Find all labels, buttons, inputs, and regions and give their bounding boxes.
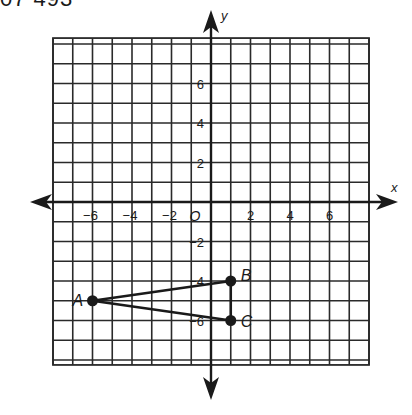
x-tick-label: 4	[286, 208, 293, 223]
y-tick-label: −2	[189, 235, 204, 250]
point-c	[225, 315, 236, 326]
point-label-a: A	[72, 292, 84, 309]
point-a	[87, 295, 98, 306]
x-tick-label: −2	[162, 208, 177, 223]
x-tick-label: −6	[83, 208, 98, 223]
point-label-c: C	[241, 313, 253, 330]
x-tick-label: −4	[123, 208, 138, 223]
coordinate-plane: xy O−6−4−2246642−2−4−6 ABC	[0, 0, 412, 415]
x-axis-label: x	[390, 180, 398, 195]
x-tick-label: 2	[247, 208, 254, 223]
y-axis-label: y	[220, 8, 229, 23]
axes: xy	[30, 8, 398, 400]
point-label-b: B	[241, 267, 252, 284]
y-tick-label: 6	[197, 77, 204, 92]
point-b	[225, 276, 236, 287]
y-tick-label: 2	[197, 156, 204, 171]
origin-label: O	[190, 208, 201, 224]
x-tick-label: 6	[326, 208, 333, 223]
y-tick-label: 4	[197, 116, 204, 131]
